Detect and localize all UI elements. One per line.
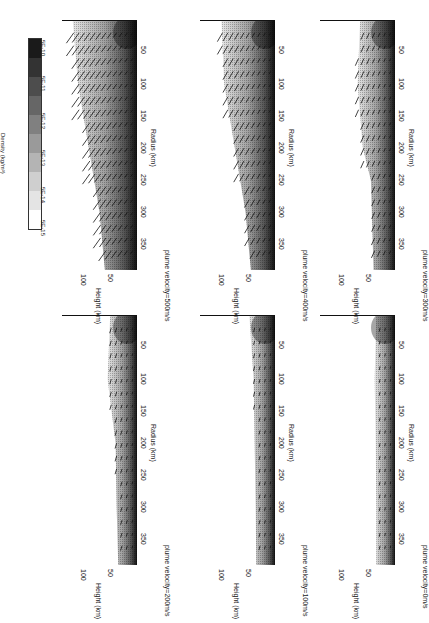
- radius-tick: 100: [278, 78, 285, 90]
- radius-tick: 250: [140, 469, 147, 481]
- radius-tick: 50: [278, 46, 285, 54]
- height-tick: 100: [338, 274, 345, 286]
- radius-tick: 50: [278, 341, 285, 349]
- height-tick: 50: [365, 569, 372, 577]
- height-tick: 50: [245, 274, 252, 282]
- radius-axis-label: Radius (km): [150, 424, 157, 462]
- height-axis-label: Height (km): [233, 583, 240, 619]
- radius-tick: 100: [140, 78, 147, 90]
- radius-axis-label: Radius (km): [150, 129, 157, 167]
- radius-axis-label: Radius (km): [288, 129, 295, 167]
- radius-tick: 150: [278, 110, 285, 122]
- radius-tick: 200: [398, 142, 405, 154]
- density-plot: [62, 315, 137, 565]
- radius-tick: 100: [140, 373, 147, 385]
- panel-title: plume velocity=400m/s: [302, 250, 309, 321]
- radius-tick: 150: [278, 405, 285, 417]
- panel-title: plume velocity=100m/s: [302, 545, 309, 616]
- radius-tick: 150: [140, 110, 147, 122]
- radius-tick: 50: [398, 341, 405, 349]
- radius-tick: 300: [398, 206, 405, 218]
- radius-tick: 350: [140, 533, 147, 545]
- height-tick: 50: [365, 274, 372, 282]
- height-axis-label: Height (km): [95, 583, 102, 619]
- radius-tick: 200: [398, 437, 405, 449]
- radius-tick: 150: [140, 405, 147, 417]
- height-tick: 50: [107, 274, 114, 282]
- radius-axis-label: Radius (km): [408, 129, 415, 167]
- radius-tick: 300: [398, 501, 405, 513]
- density-plot: [320, 315, 395, 565]
- radius-tick: 50: [398, 46, 405, 54]
- height-tick: 50: [245, 569, 252, 577]
- radius-tick: 300: [278, 206, 285, 218]
- colorbar-tick: 5E-12: [40, 113, 46, 129]
- height-axis-label: Height (km): [353, 583, 360, 619]
- radius-tick: 150: [398, 405, 405, 417]
- radius-tick: 100: [398, 373, 405, 385]
- radius-axis-label: Radius (km): [408, 424, 415, 462]
- radius-tick: 350: [398, 238, 405, 250]
- radius-axis-label: Radius (km): [288, 424, 295, 462]
- density-plot: [62, 20, 137, 270]
- radius-tick: 350: [278, 533, 285, 545]
- height-tick: 100: [80, 569, 87, 581]
- height-tick: 50: [107, 569, 114, 577]
- panel-title: plume velocity=500m/s: [164, 250, 171, 321]
- colorbar-title: Density (kg/m³): [0, 133, 6, 174]
- radius-tick: 200: [140, 437, 147, 449]
- colorbar-segment: [29, 58, 41, 77]
- panel-title: plume velocity=300m/s: [422, 250, 429, 321]
- density-plot: [200, 315, 275, 565]
- radius-tick: 300: [140, 501, 147, 513]
- colorbar-tick: 5E-15: [40, 220, 46, 236]
- colorbar-tick: 5E-14: [40, 187, 46, 203]
- colorbar-tick: 5E-13: [40, 150, 46, 166]
- radius-tick: 350: [278, 238, 285, 250]
- radius-tick: 150: [398, 110, 405, 122]
- radius-tick: 100: [398, 78, 405, 90]
- height-tick: 100: [218, 274, 225, 286]
- radius-tick: 350: [398, 533, 405, 545]
- radius-tick: 300: [278, 501, 285, 513]
- radius-tick: 250: [398, 174, 405, 186]
- panel-title: plume velocity=0m/s: [422, 545, 429, 609]
- colorbar-tick: 5E-11: [40, 76, 46, 92]
- density-plot: [200, 20, 275, 270]
- radius-tick: 350: [140, 238, 147, 250]
- radius-tick: 50: [140, 341, 147, 349]
- height-tick: 100: [338, 569, 345, 581]
- radius-tick: 200: [278, 437, 285, 449]
- radius-tick: 200: [140, 142, 147, 154]
- radius-tick: 250: [278, 174, 285, 186]
- density-plot: [320, 20, 395, 270]
- radius-tick: 50: [140, 46, 147, 54]
- radius-tick: 250: [398, 469, 405, 481]
- height-tick: 100: [218, 569, 225, 581]
- panel-title: plume velocity=200m/s: [164, 545, 171, 616]
- radius-tick: 250: [278, 469, 285, 481]
- colorbar-tick: 5E-10: [40, 40, 46, 56]
- radius-tick: 100: [278, 373, 285, 385]
- height-tick: 100: [80, 274, 87, 286]
- radius-tick: 250: [140, 174, 147, 186]
- radius-tick: 200: [278, 142, 285, 154]
- radius-tick: 300: [140, 206, 147, 218]
